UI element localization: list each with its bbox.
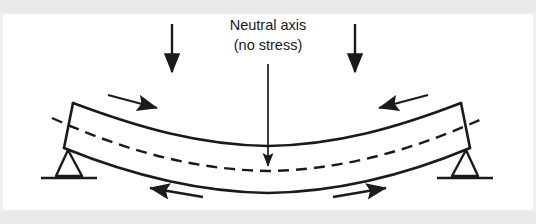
neutral-axis-label-line-2: (no stress) [234, 37, 303, 53]
pin-support-left [41, 150, 97, 178]
beam-right-end-cap [461, 103, 470, 148]
beam-top-edge [73, 103, 461, 146]
tension-arrow-left [150, 188, 203, 197]
beam-bending-diagram: Neutral axis (no stress) [0, 0, 536, 224]
figure-root: Neutral axis (no stress) [0, 0, 536, 224]
compression-arrow-left [108, 95, 157, 108]
pin-support-right [437, 150, 493, 178]
tension-arrow-right [333, 188, 386, 197]
neutral-axis-label-line-1: Neutral axis [230, 17, 307, 33]
compression-arrow-right [379, 95, 428, 108]
